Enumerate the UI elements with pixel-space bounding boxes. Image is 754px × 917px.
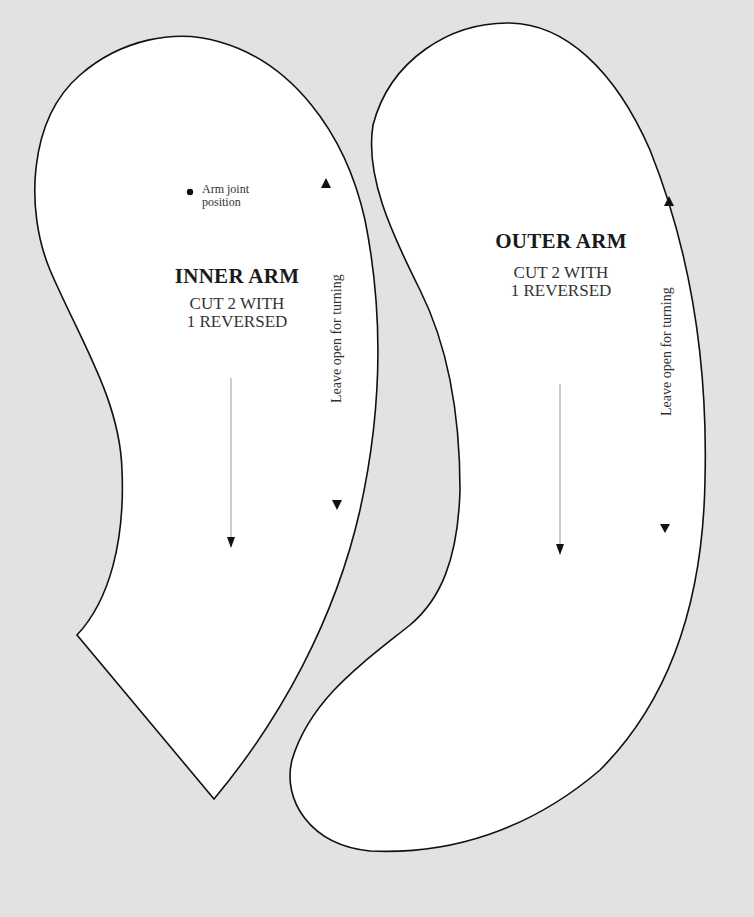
arm-joint-label: Arm joint position [202,183,249,209]
outer-arm-instructions: CUT 2 WITH 1 REVERSED [486,264,636,300]
inner-arm-cut-line2: 1 REVERSED [166,313,308,331]
inner-arm-opening-note: Leave open for turning [329,274,345,403]
inner-arm-instructions: CUT 2 WITH 1 REVERSED [166,295,308,331]
outer-arm-cut-line1: CUT 2 WITH [486,264,636,282]
outer-arm-opening-note: Leave open for turning [659,287,675,416]
inner-arm-title: INNER ARM [166,264,308,289]
arm-joint-dot-icon [187,189,193,195]
inner-arm-outline [35,36,378,799]
pattern-canvas [0,0,754,917]
inner-arm-cut-line1: CUT 2 WITH [166,295,308,313]
arm-joint-label-line2: position [202,196,249,209]
outer-arm-title: OUTER ARM [486,229,636,254]
outer-arm-cut-line2: 1 REVERSED [486,282,636,300]
